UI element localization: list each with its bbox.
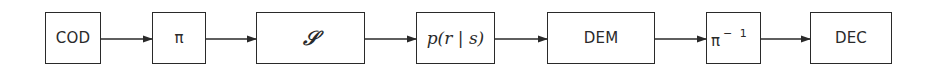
block-interleaver: π [152,12,206,64]
block-channel: p(r | s) [416,12,495,64]
block-dec: DEC [810,12,892,64]
block-label: π [174,29,183,47]
block-deinterleaver: π − 1 [706,12,761,64]
block-label: DEM [584,29,619,47]
block-superscript: − 1 [723,27,749,40]
block-cod: COD [45,12,101,64]
block-label: 𝒮 [303,26,318,50]
block-label: p(r | s) [427,28,485,48]
block-label: π [711,32,720,50]
block-demodulator: DEM [547,12,655,64]
block-modulator: 𝒮 [256,12,365,64]
block-diagram: COD π 𝒮 p(r | s) DEM π − 1 DEC [0,0,933,72]
block-label: DEC [835,29,867,47]
block-label: COD [56,29,90,47]
